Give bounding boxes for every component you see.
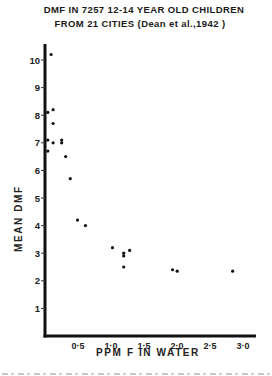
y-tick-label: 7	[35, 137, 40, 148]
axes	[44, 44, 257, 338]
data-point	[111, 246, 114, 249]
y-tick-label: 5	[35, 193, 41, 204]
data-point	[84, 224, 87, 227]
y-axis-ticks: 12345678910	[29, 55, 45, 314]
data-point	[76, 218, 79, 221]
data-point	[52, 122, 55, 125]
scatter-plot: 12345678910 0·51·01·52·02·53·0 MEAN DMF …	[0, 0, 272, 376]
x-axis-label: PPM F IN WATER	[96, 347, 200, 358]
data-point	[171, 268, 174, 271]
data-point	[46, 138, 49, 141]
data-point	[176, 270, 179, 273]
y-tick-label: 10	[29, 55, 40, 66]
data-points	[46, 53, 234, 273]
data-point	[122, 265, 125, 268]
y-tick-label: 6	[35, 165, 40, 176]
cut-off-caption-line	[0, 371, 272, 376]
data-point	[46, 149, 49, 152]
y-tick-label: 2	[35, 275, 40, 286]
y-axis-label: MEAN DMF	[13, 185, 24, 252]
data-point	[50, 53, 53, 56]
data-point	[128, 249, 131, 252]
data-point	[122, 252, 125, 255]
x-tick-label: 2·5	[203, 341, 216, 351]
y-tick-label: 4	[35, 220, 41, 231]
x-tick-label: 3·0	[236, 341, 249, 351]
data-point	[122, 254, 125, 257]
data-point	[60, 138, 63, 141]
y-tick-label: 8	[35, 110, 40, 121]
y-tick-label: 9	[35, 82, 40, 93]
data-point	[52, 141, 55, 144]
data-point	[231, 270, 234, 273]
data-point	[69, 177, 72, 180]
data-point	[64, 155, 67, 158]
x-tick-label: 0·5	[71, 341, 84, 351]
y-tick-label: 1	[35, 303, 41, 314]
data-point	[60, 141, 63, 144]
data-point	[52, 108, 55, 111]
y-tick-label: 3	[35, 248, 40, 259]
data-point	[46, 111, 49, 114]
